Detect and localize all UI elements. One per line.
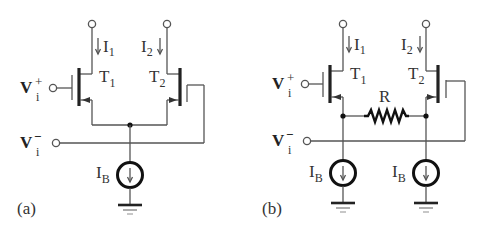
input-terminal-vminus-a <box>52 139 59 146</box>
panel-a: I1 I2 T1 T2 V + i V − i IB (a) <box>17 20 204 218</box>
drain-terminal-t1-a <box>88 20 95 27</box>
label-t2-a: T2 <box>149 67 165 90</box>
drain-terminal-t1-b <box>339 20 346 27</box>
label-vplus-b: V <box>272 74 285 93</box>
transistor-t1-a <box>57 28 92 125</box>
current-source-ib1-b <box>331 161 356 186</box>
drain-terminal-t2-b <box>422 20 429 27</box>
label-vminus-sup-a: − <box>34 129 41 144</box>
ground-icon <box>331 203 355 212</box>
panel-b: I1 I2 T1 T2 R V + i V − i IB IB (b) <box>262 20 465 218</box>
label-i1-b: I1 <box>354 35 366 57</box>
label-t1-b: T1 <box>350 64 366 87</box>
transistor-t2-a <box>167 28 204 143</box>
label-vminus-b: V <box>272 131 285 150</box>
label-ib-a: IB <box>96 163 110 186</box>
ground-icon <box>118 205 142 214</box>
label-vminus-sub-a: i <box>36 145 40 159</box>
label-i2-b: I2 <box>401 35 413 57</box>
source-arrow-icon <box>333 94 341 100</box>
drain-terminal-t2-a <box>163 20 170 27</box>
source-arrow-icon <box>427 94 435 100</box>
caption-a: (a) <box>17 199 36 218</box>
label-vplus-a: V <box>20 78 33 97</box>
ground-icon <box>414 203 438 212</box>
label-ib2-b: IB <box>392 162 406 185</box>
label-vplus-sup-b: + <box>287 70 294 85</box>
source-node-t2-b <box>423 113 428 118</box>
label-vminus-sup-b: − <box>286 127 293 142</box>
label-ib1-b: IB <box>309 162 323 185</box>
source-node-t1-b <box>340 113 345 118</box>
label-r-b: R <box>379 87 391 106</box>
resistor-r <box>364 110 409 122</box>
label-i1-a: I1 <box>103 37 115 59</box>
label-i2-a: I2 <box>141 37 153 59</box>
input-terminal-vminus-b <box>303 137 310 144</box>
input-terminal-vplus-a <box>49 84 56 91</box>
input-terminal-vplus-b <box>301 80 308 87</box>
label-vminus-sub-b: i <box>288 143 292 157</box>
current-source-ib2-b <box>414 161 439 186</box>
label-vminus-a: V <box>20 133 33 152</box>
label-t1-a: T1 <box>99 67 115 90</box>
source-arrow-icon <box>169 97 177 103</box>
label-vplus-sub-b: i <box>288 86 292 100</box>
label-vplus-sub-a: i <box>36 90 40 104</box>
circuit-figure: I1 I2 T1 T2 V + i V − i IB (a) <box>0 0 491 237</box>
source-arrow-icon <box>82 97 90 103</box>
label-t2-b: T2 <box>408 64 424 87</box>
label-vplus-sup-a: + <box>35 74 42 89</box>
caption-b: (b) <box>262 199 282 218</box>
current-source-ib-a <box>118 163 143 188</box>
